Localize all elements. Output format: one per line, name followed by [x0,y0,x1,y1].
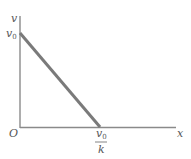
x-intercept-denominator: k [98,143,105,156]
origin-label: O [9,127,18,140]
velocity-position-diagram: v v0 O v0 k x [0,0,191,159]
x-intercept-numerator: v0 [96,127,107,141]
velocity-line [20,33,100,127]
y-intercept-label: v0 [6,27,17,41]
x-axis-label: x [177,127,184,140]
y-axis-label: v [11,12,18,25]
